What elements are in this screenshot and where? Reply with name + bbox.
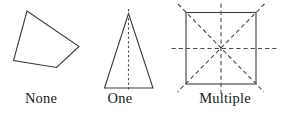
quadrilateral-shape — [14, 11, 80, 68]
label-multiple: Multiple — [199, 91, 251, 106]
symmetry-diagram: None One Multiple — [0, 0, 285, 113]
quadrilateral-group — [14, 11, 80, 68]
label-one: One — [108, 91, 133, 106]
triangle-group — [105, 9, 154, 92]
square-group — [172, 4, 278, 94]
label-none: None — [25, 91, 57, 106]
